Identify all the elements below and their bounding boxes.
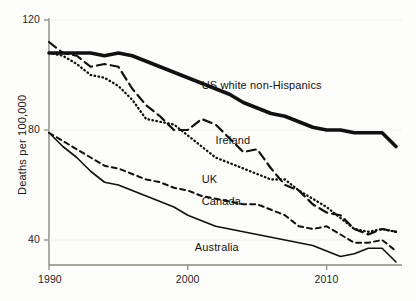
y-tick-label-80: 80	[0, 123, 40, 135]
y-axis-title: Deaths per 100,000	[16, 94, 28, 194]
line-chart-plot	[0, 0, 416, 301]
series-label-australia: Australia	[195, 241, 239, 253]
x-tick-label-2010: 2010	[315, 273, 339, 285]
x-tick-label-2000: 2000	[176, 273, 200, 285]
y-tick-label-120: 120	[0, 13, 40, 25]
chart-container: Deaths per 100,000 120 80 40 1990 2000 2…	[0, 0, 416, 301]
series-label-us-white-non-hispanics: US white non-Hispanics	[202, 79, 322, 91]
x-tick-label-1990: 1990	[38, 273, 62, 285]
y-tick-label-40: 40	[0, 233, 40, 245]
series-lines-group	[49, 42, 396, 262]
series-label-ireland: Ireland	[216, 134, 251, 146]
series-line-canada	[49, 133, 396, 251]
series-label-uk: UK	[202, 173, 218, 185]
series-label-canada: Canada	[202, 195, 241, 207]
